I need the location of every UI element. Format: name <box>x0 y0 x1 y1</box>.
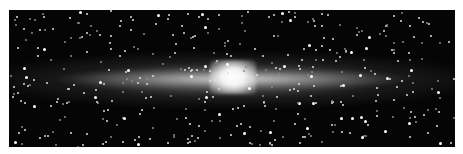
star <box>360 116 363 119</box>
star <box>152 53 154 55</box>
star <box>310 135 312 137</box>
star <box>389 78 391 80</box>
star <box>418 17 420 19</box>
star <box>412 91 414 93</box>
star <box>282 136 284 138</box>
star <box>167 142 169 144</box>
star <box>141 109 143 111</box>
star <box>211 120 213 122</box>
star <box>52 131 54 133</box>
star <box>106 120 108 122</box>
star <box>430 35 432 37</box>
star <box>332 38 334 40</box>
star <box>297 90 299 92</box>
star <box>428 23 430 25</box>
star <box>157 14 160 17</box>
star <box>167 18 169 20</box>
star <box>82 144 84 146</box>
star <box>414 116 416 118</box>
star <box>268 16 270 18</box>
star <box>415 121 417 123</box>
star <box>421 42 423 44</box>
star <box>367 124 369 126</box>
star <box>269 131 272 134</box>
star <box>198 125 200 127</box>
star <box>134 139 136 141</box>
star <box>46 82 48 84</box>
star <box>356 27 358 29</box>
star <box>110 136 112 138</box>
star <box>375 100 377 102</box>
star <box>44 29 46 31</box>
star <box>413 36 415 38</box>
star <box>206 91 208 93</box>
star <box>194 140 196 142</box>
star <box>120 20 122 22</box>
star <box>55 144 57 146</box>
star <box>59 119 61 121</box>
star <box>34 19 36 21</box>
star <box>263 83 265 85</box>
star <box>321 25 323 27</box>
star <box>137 143 140 146</box>
star <box>334 124 336 126</box>
star <box>194 35 196 37</box>
star <box>376 110 378 112</box>
star <box>185 108 187 110</box>
star <box>207 18 209 20</box>
star <box>119 25 121 27</box>
star <box>331 124 333 126</box>
star <box>448 41 450 43</box>
star <box>77 146 79 147</box>
star <box>37 55 39 57</box>
star <box>227 40 229 42</box>
star <box>62 103 64 105</box>
star <box>247 11 249 13</box>
star <box>427 109 429 111</box>
star <box>438 111 440 113</box>
star <box>358 31 360 33</box>
star <box>198 98 200 100</box>
star <box>239 43 241 45</box>
star <box>170 95 172 97</box>
star <box>105 141 107 143</box>
star <box>437 91 440 94</box>
star <box>99 81 102 84</box>
star <box>125 71 127 73</box>
star <box>409 117 411 119</box>
star <box>340 117 343 120</box>
star <box>63 68 65 70</box>
star <box>412 82 414 84</box>
star <box>273 14 275 16</box>
star <box>361 136 364 139</box>
star <box>361 30 363 32</box>
star <box>379 33 381 35</box>
star <box>341 131 343 133</box>
star <box>279 68 281 70</box>
star <box>31 32 33 34</box>
star <box>385 35 387 37</box>
star <box>359 74 362 77</box>
star <box>43 16 45 18</box>
star <box>259 144 261 146</box>
star <box>47 135 49 137</box>
star <box>175 43 177 45</box>
star <box>14 141 17 144</box>
star <box>265 69 267 71</box>
star <box>10 75 12 77</box>
star <box>86 133 88 135</box>
star <box>193 47 195 49</box>
star <box>152 127 154 129</box>
star <box>356 34 358 36</box>
star <box>240 123 242 125</box>
star <box>314 25 316 27</box>
star <box>189 123 191 125</box>
star <box>86 32 88 34</box>
star <box>384 130 387 133</box>
star <box>224 45 226 47</box>
star <box>400 20 402 22</box>
star <box>410 111 412 113</box>
galaxy-image <box>9 10 455 147</box>
star <box>301 59 303 61</box>
star <box>422 21 424 23</box>
